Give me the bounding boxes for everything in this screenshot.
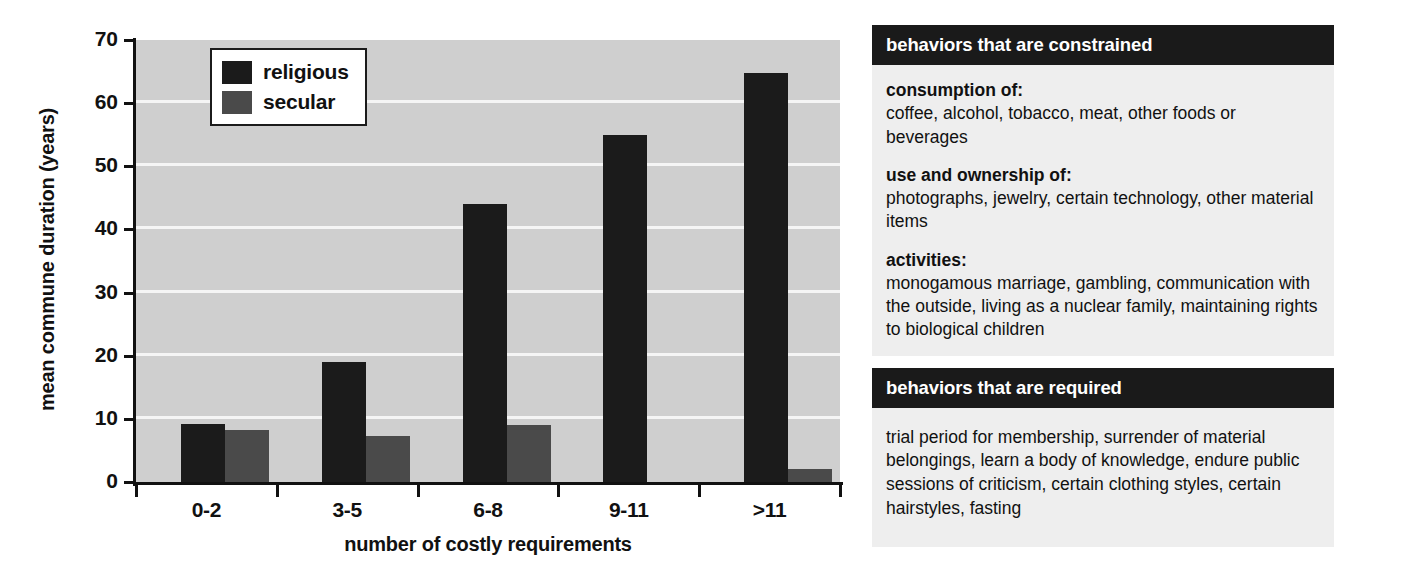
y-axis-tick-label: 20 <box>58 343 118 367</box>
gridline <box>136 163 840 166</box>
x-axis-tick-label: 3-5 <box>277 498 417 522</box>
panel-entry: activities: monogamous marriage, gamblin… <box>886 249 1318 342</box>
legend-item-secular: secular <box>222 87 349 117</box>
x-axis-tick <box>276 484 279 497</box>
bar-secular-6-8 <box>507 425 551 482</box>
y-axis-tick <box>124 228 134 231</box>
bar-religious-9-11 <box>603 135 647 482</box>
y-axis-tick-label: 40 <box>58 216 118 240</box>
y-axis-tick <box>124 39 134 42</box>
panel-body-required: trial period for membership, surrender o… <box>872 408 1334 547</box>
x-axis-tick <box>417 484 420 497</box>
legend-label-religious: religious <box>263 60 349 84</box>
side-panel: behaviors that are constrained consumpti… <box>872 25 1334 547</box>
x-axis-tick <box>698 484 701 497</box>
panel-header-constrained: behaviors that are constrained <box>872 25 1334 65</box>
y-axis-tick <box>124 418 134 421</box>
bar-religious->11 <box>744 73 788 482</box>
panel-entry-term: consumption of: <box>886 79 1318 102</box>
legend-item-religious: religious <box>222 57 349 87</box>
bar-chart-figure: mean commune duration (years) 0102030405… <box>0 0 860 576</box>
bar-religious-3-5 <box>322 362 366 482</box>
panel-body-constrained: consumption of: coffee, alcohol, tobacco… <box>872 65 1334 356</box>
y-axis-tick-label: 0 <box>58 469 118 493</box>
panel-entry-desc: monogamous marriage, gambling, communica… <box>886 272 1318 342</box>
y-axis-tick <box>124 102 134 105</box>
y-axis-tick-label: 30 <box>58 280 118 304</box>
bar-religious-0-2 <box>181 424 225 482</box>
y-axis-title: mean commune duration (years) <box>36 50 59 470</box>
y-axis-tick <box>124 292 134 295</box>
panel-required-text: trial period for membership, surrender o… <box>886 426 1318 521</box>
panel-entry-term: use and ownership of: <box>886 164 1318 187</box>
x-axis-tick <box>557 484 560 497</box>
x-axis-tick-label: 6-8 <box>418 498 558 522</box>
x-axis-tick-label: 0-2 <box>136 498 276 522</box>
x-axis-line <box>133 482 843 485</box>
bar-secular-3-5 <box>366 436 410 482</box>
panel-entry-desc: coffee, alcohol, tobacco, meat, other fo… <box>886 102 1318 149</box>
legend-label-secular: secular <box>263 90 335 114</box>
panel-entry-term: activities: <box>886 249 1318 272</box>
x-axis-tick <box>839 484 842 497</box>
legend-swatch-religious <box>222 61 252 84</box>
panel-entry-desc: photographs, jewelry, certain technology… <box>886 187 1318 234</box>
y-axis-tick-label: 10 <box>58 406 118 430</box>
bar-religious-6-8 <box>463 204 507 482</box>
y-axis-tick-label: 70 <box>58 27 118 51</box>
y-axis-tick-label: 50 <box>58 153 118 177</box>
x-axis-tick <box>135 484 138 497</box>
y-axis-tick-label: 60 <box>58 90 118 114</box>
x-axis-title: number of costly requirements <box>136 533 840 556</box>
x-axis-tick-label: 9-11 <box>559 498 699 522</box>
y-axis-tick <box>124 355 134 358</box>
panel-header-required: behaviors that are required <box>872 368 1334 408</box>
panel-divider <box>872 356 1334 368</box>
legend-swatch-secular <box>222 91 252 114</box>
bar-secular->11 <box>788 469 832 482</box>
x-axis-tick-label: >11 <box>700 498 840 522</box>
chart-legend: religious secular <box>210 48 367 126</box>
panel-entry: consumption of: coffee, alcohol, tobacco… <box>886 79 1318 149</box>
panel-entry: use and ownership of: photographs, jewel… <box>886 164 1318 234</box>
bar-secular-0-2 <box>225 430 269 482</box>
y-axis-tick <box>124 165 134 168</box>
